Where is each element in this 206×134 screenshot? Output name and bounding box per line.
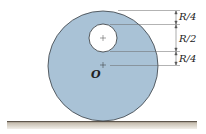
dimension-label-top: R/4 bbox=[179, 12, 196, 22]
dimension-label-bottom: R/4 bbox=[179, 54, 196, 64]
dimension-label-middle: R/2 bbox=[179, 34, 196, 44]
diagram-canvas bbox=[0, 0, 206, 134]
ground bbox=[7, 121, 197, 129]
center-label-o: O bbox=[91, 69, 101, 80]
dimension-arrows bbox=[175, 11, 177, 65]
